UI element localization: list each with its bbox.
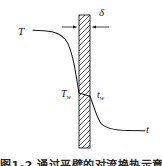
heat-transfer-figure: T δ Tw tw t 图1-2 通过平壁的对流换热示意图 (0, 0, 162, 166)
hot-wall-surface-temperature-label: Tw (61, 89, 71, 99)
hot-side-temperature-curve (33, 30, 79, 93)
hot-wall-temp-symbol: T (61, 88, 67, 99)
wall-slab (79, 15, 90, 148)
cold-side-temperature-curve (90, 96, 145, 131)
cold-wall-temp-subscript: w (100, 94, 104, 101)
hot-fluid-temperature-label: T (18, 26, 24, 37)
cold-fluid-temperature-label: t (146, 124, 149, 135)
figure-caption: 图1-2 通过平壁的对流换热示意图 (0, 156, 162, 166)
wall-thickness-delta-label: δ (99, 7, 104, 18)
temperature-profile-diagram (0, 0, 162, 166)
hot-wall-temp-subscript: w (67, 93, 71, 100)
cold-wall-surface-temperature-label: tw (97, 90, 104, 100)
